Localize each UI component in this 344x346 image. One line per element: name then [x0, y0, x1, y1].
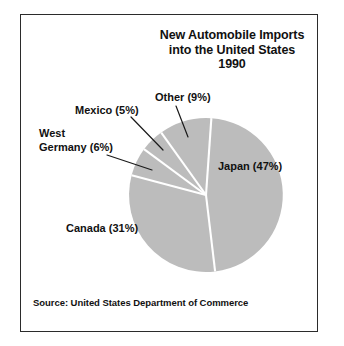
slice-label-west-germany-line-1: West	[39, 127, 113, 141]
pie-chart-graphic	[0, 0, 344, 346]
slice-label-mexico: Mexico (5%)	[75, 104, 139, 118]
slice-label-west-germany-line-2: Germany (6%)	[39, 141, 113, 155]
slice-label-other: Other (9%)	[155, 91, 211, 105]
source-note: Source: United States Department of Comm…	[33, 297, 248, 308]
slice-label-canada: Canada (31%)	[66, 222, 138, 236]
pie-chart-figure: New Automobile Imports into the United S…	[0, 0, 344, 346]
leader-line-mexico	[131, 117, 163, 150]
slice-label-west-germany: West Germany (6%)	[39, 127, 113, 154]
pie-slice-japan	[206, 118, 283, 271]
slice-label-japan: Japan (47%)	[218, 160, 282, 174]
